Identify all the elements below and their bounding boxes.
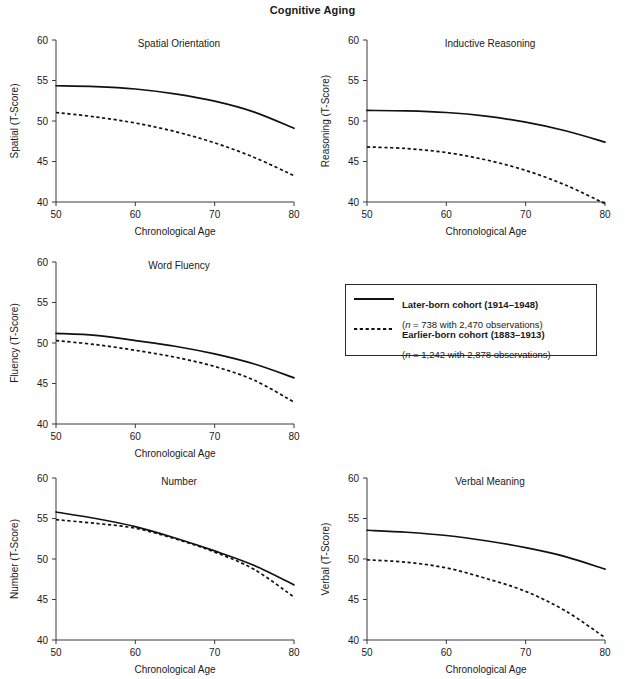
y-tick-label: 55	[37, 513, 49, 524]
y-tick-label: 40	[37, 197, 49, 208]
y-tick-label: 40	[37, 419, 49, 430]
y-axis-title: Spatial (T-Score)	[9, 83, 20, 158]
panel-verbal-meaning: 404550556050607080Verbal MeaningChronolo…	[311, 466, 616, 678]
x-tick-label: 80	[288, 431, 300, 442]
y-tick-label: 50	[37, 338, 49, 349]
series-line-later-born	[367, 110, 605, 142]
y-tick-label: 50	[37, 554, 49, 565]
y-tick-label: 45	[37, 378, 49, 389]
x-tick-label: 60	[130, 431, 142, 442]
y-axis-title: Number (T-Score)	[9, 519, 20, 599]
x-axis-title: Chronological Age	[134, 226, 216, 237]
x-tick-label: 50	[50, 647, 62, 658]
x-tick-label: 60	[441, 209, 453, 220]
y-axis-title: Fluency (T-Score)	[9, 303, 20, 382]
x-tick-label: 50	[361, 209, 373, 220]
y-tick-label: 45	[348, 594, 360, 605]
legend-label-earlier-born: Earlier-born cohort (1883–1913)	[402, 329, 545, 340]
panel-title: Spatial Orientation	[138, 38, 220, 49]
x-tick-label: 60	[130, 209, 142, 220]
y-axis-title: Reasoning (T-Score)	[320, 75, 331, 167]
y-tick-label: 60	[348, 473, 360, 484]
y-tick-label: 60	[348, 35, 360, 46]
series-line-earlier-born	[367, 560, 605, 638]
x-tick-label: 50	[50, 431, 62, 442]
x-tick-label: 60	[130, 647, 142, 658]
panel-spatial-orientation: 404550556050607080Spatial OrientationChr…	[0, 28, 305, 240]
y-tick-label: 60	[37, 473, 49, 484]
y-axis-title: Verbal (T-Score)	[320, 523, 331, 596]
legend: Later-born cohort (1914–1948) (n = 738 w…	[345, 284, 597, 356]
y-tick-label: 60	[37, 257, 49, 268]
series-line-earlier-born	[367, 147, 605, 204]
y-tick-label: 55	[37, 75, 49, 86]
series-line-later-born	[367, 530, 605, 569]
x-tick-label: 50	[361, 647, 373, 658]
panel-title: Verbal Meaning	[455, 476, 525, 487]
series-line-earlier-born	[56, 113, 294, 176]
x-axis-title: Chronological Age	[134, 664, 216, 675]
y-tick-label: 45	[348, 156, 360, 167]
x-axis-title: Chronological Age	[445, 226, 527, 237]
series-line-later-born	[56, 86, 294, 129]
x-tick-label: 50	[50, 209, 62, 220]
series-line-earlier-born	[56, 341, 294, 403]
panel-title: Inductive Reasoning	[445, 38, 536, 49]
x-tick-label: 80	[288, 209, 300, 220]
y-tick-label: 55	[348, 513, 360, 524]
figure-title: Cognitive Aging	[0, 4, 625, 16]
y-tick-label: 50	[348, 554, 360, 565]
series-line-later-born	[56, 333, 294, 378]
panel-title: Word Fluency	[148, 260, 210, 271]
y-tick-label: 55	[37, 297, 49, 308]
y-tick-label: 50	[348, 116, 360, 127]
x-tick-label: 70	[209, 209, 221, 220]
y-tick-label: 45	[37, 594, 49, 605]
x-tick-label: 70	[520, 209, 532, 220]
y-tick-label: 40	[37, 635, 49, 646]
legend-dashed-line-icon	[354, 326, 394, 338]
panel-title: Number	[161, 476, 197, 487]
series-line-earlier-born	[56, 520, 294, 597]
y-tick-label: 40	[348, 635, 360, 646]
x-tick-label: 70	[209, 647, 221, 658]
x-tick-label: 80	[599, 647, 611, 658]
legend-label-later-born: Later-born cohort (1914–1948)	[402, 299, 538, 310]
y-tick-label: 55	[348, 75, 360, 86]
x-axis-title: Chronological Age	[445, 664, 527, 675]
y-tick-label: 60	[37, 35, 49, 46]
panel-inductive-reasoning: 404550556050607080Inductive ReasoningChr…	[311, 28, 616, 240]
panel-number: 404550556050607080NumberChronological Ag…	[0, 466, 305, 678]
x-tick-label: 80	[288, 647, 300, 658]
y-tick-label: 50	[37, 116, 49, 127]
x-tick-label: 60	[441, 647, 453, 658]
x-axis-title: Chronological Age	[134, 448, 216, 459]
legend-item-earlier-born: Earlier-born cohort (1883–1913) (n = 1,2…	[354, 323, 551, 363]
legend-sublabel-earlier-born: (n = 1,242 with 2,878 observations)	[402, 349, 551, 360]
y-tick-label: 40	[348, 197, 360, 208]
legend-solid-line-icon	[354, 296, 394, 308]
y-tick-label: 45	[37, 156, 49, 167]
x-tick-label: 80	[599, 209, 611, 220]
panel-word-fluency: 404550556050607080Word FluencyChronologi…	[0, 250, 305, 462]
x-tick-label: 70	[520, 647, 532, 658]
x-tick-label: 70	[209, 431, 221, 442]
